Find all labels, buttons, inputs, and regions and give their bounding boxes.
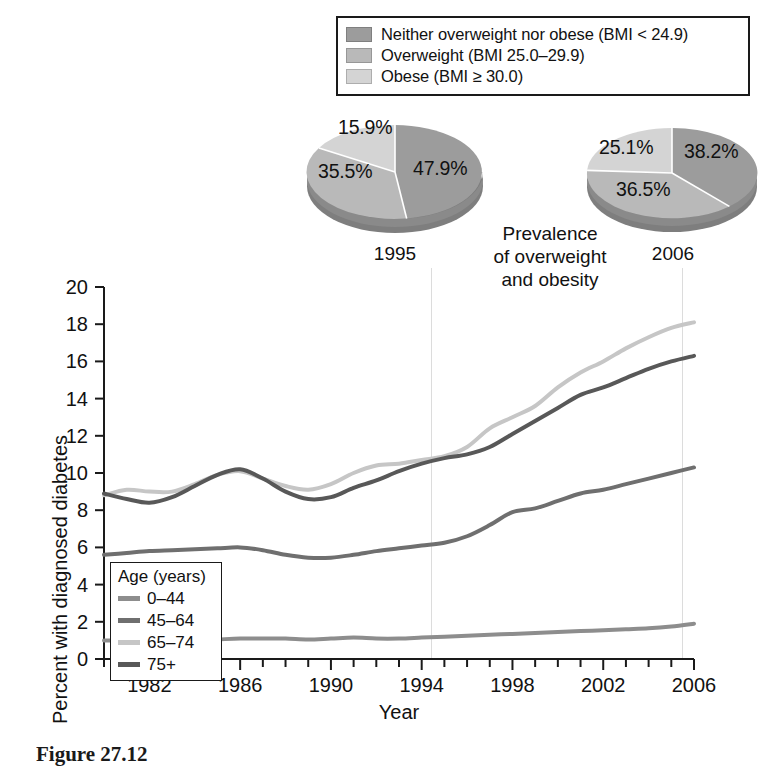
- bmi-legend-label: Obese (BMI ≥ 30.0): [381, 67, 523, 86]
- bmi-swatch-obese: [346, 69, 372, 84]
- y-tick-label: 18: [48, 314, 88, 334]
- pie-2006-value-obese: 25.1%: [599, 136, 653, 159]
- bmi-legend-label: Neither overweight nor obese (BMI < 24.9…: [381, 25, 688, 44]
- pie-2006-value-overweight: 36.5%: [616, 178, 670, 201]
- age-legend-item: 45–64: [118, 609, 215, 631]
- age-legend-label: 65–74: [147, 633, 194, 652]
- x-tick-label: 1990: [296, 675, 366, 695]
- pie-2006-value-neither: 38.2%: [684, 140, 738, 163]
- pie-1995-year-label: 1995: [362, 243, 428, 265]
- y-tick-marks: [95, 287, 104, 659]
- age-line-swatch-45-64: [118, 618, 140, 623]
- diabetes-line-chart: Percent with diagnosed diabetes Year 024…: [0, 268, 772, 728]
- age-legend-label: 0–44: [147, 589, 185, 608]
- series-line-75-: [104, 356, 694, 503]
- pie-1995-value-neither: 47.9%: [413, 157, 467, 180]
- bmi-legend: Neither overweight nor obese (BMI < 24.9…: [336, 16, 750, 96]
- bmi-legend-item: Neither overweight nor obese (BMI < 24.9…: [346, 24, 740, 45]
- pie-chart-1995: 47.9% 35.5% 15.9% 1995: [300, 110, 490, 245]
- y-tick-label: 4: [48, 575, 88, 595]
- age-line-swatch-65-74: [118, 640, 140, 645]
- figure-caption: Figure 27.12: [36, 742, 148, 767]
- age-legend-label: 45–64: [147, 611, 194, 630]
- bmi-legend-item: Obese (BMI ≥ 30.0): [346, 66, 740, 87]
- x-tick-label: 1994: [387, 675, 457, 695]
- x-axis-label: Year: [104, 701, 694, 724]
- y-tick-label: 8: [48, 500, 88, 520]
- bmi-swatch-neither: [346, 27, 372, 42]
- y-tick-label: 6: [48, 537, 88, 557]
- age-line-swatch-75plus: [118, 662, 140, 667]
- prevalence-caption-line1: Prevalence: [466, 222, 634, 245]
- age-legend-item: 65–74: [118, 631, 215, 653]
- x-tick-label: 2006: [659, 675, 729, 695]
- age-legend-item: 0–44: [118, 587, 215, 609]
- bmi-swatch-overweight: [346, 48, 372, 63]
- prevalence-caption-line2: of overweight: [466, 245, 634, 268]
- age-legend-item: 75+: [118, 653, 215, 675]
- x-tick-label: 2002: [568, 675, 638, 695]
- bmi-legend-label: Overweight (BMI 25.0–29.9): [381, 46, 585, 65]
- pie-2006-year-label: 2006: [640, 243, 706, 265]
- age-legend: Age (years) 0–44 45–64 65–74 75+: [110, 562, 222, 681]
- y-tick-label: 12: [48, 426, 88, 446]
- series-line-45-64: [104, 467, 694, 558]
- age-legend-label: 75+: [147, 655, 176, 674]
- age-line-swatch-0-44: [118, 596, 140, 601]
- y-tick-label: 10: [48, 463, 88, 483]
- bmi-legend-item: Overweight (BMI 25.0–29.9): [346, 45, 740, 66]
- age-legend-title: Age (years): [118, 566, 215, 587]
- y-tick-label: 16: [48, 351, 88, 371]
- y-tick-label: 14: [48, 389, 88, 409]
- pie-1995-value-obese: 15.9%: [338, 116, 392, 139]
- y-tick-label: 20: [48, 277, 88, 297]
- x-tick-label: 1998: [477, 675, 547, 695]
- pie-1995-value-overweight: 35.5%: [318, 160, 372, 183]
- y-tick-label: 2: [48, 612, 88, 632]
- y-tick-label: 0: [48, 649, 88, 669]
